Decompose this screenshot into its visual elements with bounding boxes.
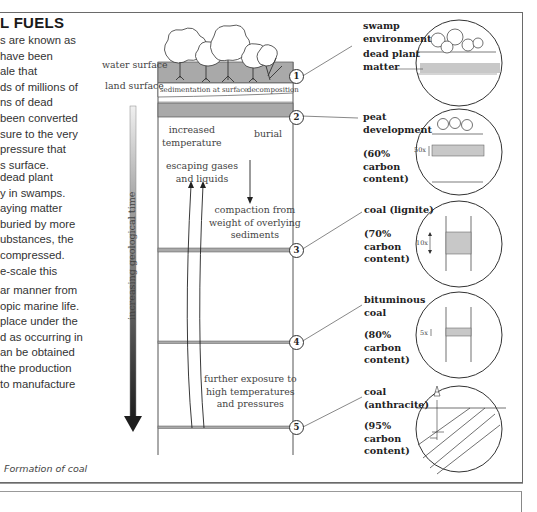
dead-plant-matter-label: dead plant matter xyxy=(363,48,420,73)
further-exposure-label: further exposure to high temperatures an… xyxy=(204,373,297,411)
stage-marker-5: 5 xyxy=(289,420,304,435)
stage-marker-4: 4 xyxy=(289,335,304,350)
stage-4-carbon: (80% carbon content) xyxy=(364,329,410,367)
label-line: content) xyxy=(364,445,410,458)
label-line: further exposure to xyxy=(204,373,297,386)
label-line: dead plant xyxy=(363,48,420,61)
stage-2-carbon: (60% carbon content) xyxy=(363,148,409,186)
stage-5-label: coal (anthracite) xyxy=(364,386,429,411)
sedimentation-label: sedimentation at surface xyxy=(160,86,248,94)
stage-5-carbon: (95% carbon content) xyxy=(364,420,410,458)
increased-temperature-label: increased temperature xyxy=(162,124,222,149)
stage-2-label: peat development xyxy=(363,111,432,136)
label-line: carbon xyxy=(364,241,410,254)
leader-lines xyxy=(301,46,362,428)
label-line: coal xyxy=(364,307,425,320)
label-line: carbon xyxy=(363,161,409,174)
label-line: carbon xyxy=(364,342,410,355)
label-line: sediments xyxy=(209,229,301,242)
label-line: coal xyxy=(364,386,429,399)
label-line: increased xyxy=(162,124,222,137)
label-line: matter xyxy=(363,61,420,74)
label-line: peat xyxy=(363,111,432,124)
label-line: escaping gases xyxy=(166,160,238,173)
stage-marker-1: 1 xyxy=(289,69,304,84)
label-line: and pressures xyxy=(204,398,297,411)
label-line: temperature xyxy=(162,137,222,150)
stage-marker-3: 3 xyxy=(289,243,304,258)
compaction-label: compaction from weight of overlying sedi… xyxy=(209,204,301,242)
escaping-gases-label: escaping gases and liquids xyxy=(166,160,238,185)
label-line: carbon xyxy=(364,433,410,446)
land-surface-label: land surface xyxy=(105,80,164,91)
thickness-10x: 10x xyxy=(416,239,428,247)
thickness-50x: 50x xyxy=(414,146,426,154)
decomposition-label: decomposition xyxy=(247,86,299,94)
water-surface-label: water surface xyxy=(102,59,168,70)
label-line: (anthracite) xyxy=(364,399,429,412)
label-line: (70% xyxy=(364,228,410,241)
label-line: compaction from xyxy=(209,204,301,217)
thickness-5x: 5x xyxy=(420,329,428,337)
burial-label: burial xyxy=(254,128,282,141)
label-line: (80% xyxy=(364,329,410,342)
label-line: bituminous xyxy=(364,294,425,307)
stage-3-label: coal (lignite) xyxy=(364,204,434,217)
stage-1-label: swamp environment xyxy=(363,20,431,45)
label-line: weight of overlying xyxy=(209,217,301,230)
label-line: (60% xyxy=(363,148,409,161)
stage-marker-2: 2 xyxy=(289,110,304,125)
label-line: swamp xyxy=(363,20,431,33)
label-line: content) xyxy=(363,173,409,186)
label-line: high temperatures xyxy=(204,386,297,399)
label-line: content) xyxy=(364,354,410,367)
stage-4-label: bituminous coal xyxy=(364,294,425,319)
label-line: (95% xyxy=(364,420,410,433)
stage-3-carbon: (70% carbon content) xyxy=(364,228,410,266)
label-line: and liquids xyxy=(166,173,238,186)
label-line: environment xyxy=(363,33,431,46)
label-line: content) xyxy=(364,253,410,266)
time-axis-label: increasing geological time xyxy=(126,191,137,320)
label-line: development xyxy=(363,124,432,137)
